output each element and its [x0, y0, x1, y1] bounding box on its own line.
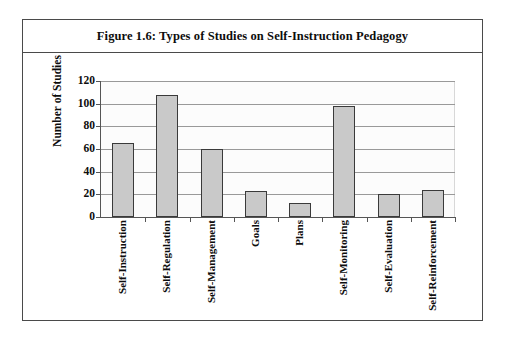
y-axis-tick-label: 100: [57, 98, 95, 110]
x-axis-category-label: Self-Instruction: [117, 220, 128, 294]
bar[interactable]: [112, 143, 134, 217]
bar-slot: [367, 81, 411, 217]
bar[interactable]: [378, 194, 400, 217]
bar[interactable]: [289, 203, 311, 217]
bar-slot: [411, 81, 455, 217]
x-axis-category-label: Self-Reinforcement: [426, 220, 437, 311]
y-axis-tick-label: 40: [57, 166, 95, 178]
bar[interactable]: [333, 106, 355, 217]
x-axis-tick-mark: [455, 217, 456, 222]
bar[interactable]: [201, 149, 223, 217]
x-axis-category-labels: Self-InstructionSelf-RegulationSelf-Mana…: [100, 220, 454, 316]
x-axis-label-slot: Self-Monitoring: [321, 220, 365, 316]
x-axis-label-slot: Self-Evaluation: [366, 220, 410, 316]
bar-slot: [278, 81, 322, 217]
bar[interactable]: [422, 190, 444, 217]
plot-area: [100, 81, 455, 218]
y-axis-tick-label: 20: [57, 189, 95, 201]
bar-slot: [322, 81, 366, 217]
y-axis-tick-labels: 020406080100120: [57, 81, 95, 217]
x-axis-label-slot: Self-Management: [189, 220, 233, 316]
x-axis-label-slot: Self-Reinforcement: [410, 220, 454, 316]
page-title: Figure 1.6: Types of Studies on Self-Ins…: [97, 29, 408, 44]
x-axis-category-label: Self-Regulation: [161, 220, 172, 293]
bar-slot: [234, 81, 278, 217]
x-axis-label-slot: Self-Instruction: [100, 220, 144, 316]
y-axis-tick-label: 120: [57, 75, 95, 87]
bar[interactable]: [156, 95, 178, 217]
x-axis-category-label: Goals: [249, 220, 260, 247]
chart-body: Number of Studies 020406080100120 Self-I…: [23, 53, 482, 321]
y-axis-tick-label: 80: [57, 121, 95, 133]
bar-slot: [101, 81, 145, 217]
y-axis-tick-label: 60: [57, 143, 95, 155]
bars-layer: [101, 81, 455, 217]
y-axis-tick-mark: [96, 217, 101, 218]
bar-slot: [190, 81, 234, 217]
figure-frame: Figure 1.6: Types of Studies on Self-Ins…: [22, 19, 483, 321]
x-axis-label-slot: Plans: [277, 220, 321, 316]
figure-title-bar: Figure 1.6: Types of Studies on Self-Ins…: [23, 20, 482, 53]
x-axis-category-label: Self-Monitoring: [338, 220, 349, 295]
bar[interactable]: [245, 191, 267, 217]
x-axis-label-slot: Self-Regulation: [144, 220, 188, 316]
x-axis-category-label: Plans: [294, 220, 305, 246]
x-axis-label-slot: Goals: [233, 220, 277, 316]
bar-slot: [145, 81, 189, 217]
x-axis-category-label: Self-Management: [205, 220, 216, 303]
x-axis-category-label: Self-Evaluation: [382, 220, 393, 293]
y-axis-tick-label: 0: [57, 211, 95, 223]
